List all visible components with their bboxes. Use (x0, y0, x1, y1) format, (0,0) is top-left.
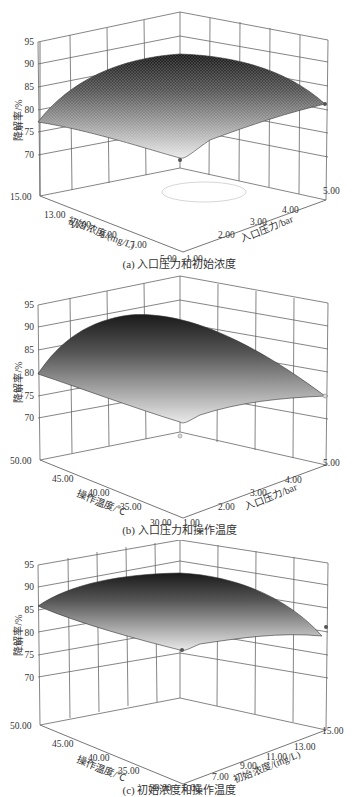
svg-text:85: 85 (25, 82, 35, 92)
response-surface (38, 315, 325, 423)
svg-text:70: 70 (25, 673, 35, 683)
svg-text:90: 90 (25, 582, 35, 592)
surface-plot-c: 95 90 85 80 75 70 降解率/% 50.00 45.00 40.0… (0, 540, 359, 797)
svg-text:45.00: 45.00 (52, 739, 74, 749)
svg-text:50.00: 50.00 (10, 721, 32, 731)
svg-text:15.00: 15.00 (10, 192, 32, 202)
z-axis-label: 降解率/% (12, 614, 24, 655)
surface-plot-a-svg: 95 90 85 80 75 70 降解率/% 15.00 13.00 11.0… (0, 0, 359, 270)
caption-c: (c) 初始浓度和操作温度 (0, 781, 359, 797)
surface-plot-a: 95 90 85 80 75 70 降解率/% 15.00 13.00 11.0… (0, 0, 359, 270)
svg-text:90: 90 (25, 59, 35, 69)
svg-text:50.00: 50.00 (10, 456, 32, 466)
svg-text:45.00: 45.00 (52, 474, 74, 484)
svg-text:80: 80 (25, 628, 35, 638)
svg-text:80: 80 (25, 105, 35, 115)
data-point (180, 648, 184, 652)
svg-text:75: 75 (25, 650, 35, 660)
svg-text:70: 70 (25, 150, 35, 160)
svg-text:85: 85 (25, 345, 35, 355)
data-point (178, 434, 182, 438)
data-point (178, 158, 182, 162)
caption-a: (a) 入口压力和初始浓度 (0, 255, 359, 271)
svg-text:70: 70 (25, 413, 35, 423)
svg-text:13.00: 13.00 (44, 210, 66, 220)
y-axis-label: 入口压力/bar (239, 212, 296, 244)
data-point (324, 625, 328, 629)
response-surface (38, 573, 322, 651)
x-axis-label: 初始浓度/(mg/L) (66, 213, 137, 252)
z-axis-ticks: 95 90 85 80 75 70 (25, 37, 35, 160)
z-axis-label: 降解率/% (12, 99, 24, 140)
surface-plot-b-svg: 95 90 85 80 75 70 降解率/% 50.00 45.00 40.0… (0, 270, 359, 540)
svg-text:5.00: 5.00 (323, 458, 340, 468)
z-axis-ticks: 95 90 85 80 75 70 (25, 300, 35, 423)
data-point (323, 102, 327, 106)
svg-text:5.00: 5.00 (323, 186, 340, 196)
svg-text:2.00: 2.00 (218, 502, 235, 512)
svg-text:95: 95 (25, 300, 35, 310)
contour-ellipse (162, 182, 246, 202)
surface-plot-c-svg: 95 90 85 80 75 70 降解率/% 50.00 45.00 40.0… (0, 540, 359, 797)
svg-text:95: 95 (25, 37, 35, 47)
data-point (323, 394, 327, 398)
svg-text:75: 75 (25, 391, 35, 401)
surface-plot-b: 95 90 85 80 75 70 降解率/% 50.00 45.00 40.0… (0, 270, 359, 540)
caption-b: (b) 入口压力和操作温度 (0, 521, 359, 537)
z-axis-label: 降解率/% (12, 361, 24, 402)
svg-text:80: 80 (25, 368, 35, 378)
svg-text:85: 85 (25, 605, 35, 615)
svg-text:90: 90 (25, 322, 35, 332)
svg-text:2.00: 2.00 (218, 230, 235, 240)
svg-text:15.00: 15.00 (322, 726, 344, 736)
svg-text:95: 95 (25, 560, 35, 570)
z-axis-ticks: 95 90 85 80 75 70 (25, 560, 35, 683)
svg-text:75: 75 (25, 127, 35, 137)
